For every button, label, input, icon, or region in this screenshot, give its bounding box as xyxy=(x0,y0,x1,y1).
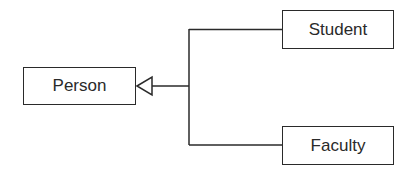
class-label-person: Person xyxy=(53,76,107,96)
uml-diagram: Person Student Faculty xyxy=(0,0,417,177)
class-box-student[interactable]: Student xyxy=(282,10,394,49)
class-label-student: Student xyxy=(309,20,368,40)
class-label-faculty: Faculty xyxy=(311,136,366,156)
generalization-arrowhead-icon xyxy=(137,77,152,95)
class-box-faculty[interactable]: Faculty xyxy=(282,126,394,165)
class-box-person[interactable]: Person xyxy=(23,67,136,105)
